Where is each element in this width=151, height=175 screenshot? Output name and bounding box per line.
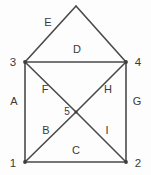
edge-label-c: C <box>72 145 80 156</box>
graph-edge-h <box>76 62 126 112</box>
graph-node-4 <box>124 60 128 64</box>
edge-label-g: G <box>133 96 142 107</box>
vertex-label-4: 4 <box>135 57 141 68</box>
edge-label-h: H <box>104 84 112 95</box>
vertex-label-3: 3 <box>10 57 16 68</box>
graph-edge-b <box>25 112 76 162</box>
graph-diagram: 12345ABCDEFGHI <box>0 0 151 175</box>
vertex-label-5: 5 <box>64 106 70 117</box>
edge-label-i: I <box>105 125 108 136</box>
graph-edge-i <box>76 112 126 162</box>
edge-label-d: D <box>73 44 81 55</box>
edge-label-a: A <box>10 96 17 107</box>
edge-label-f: F <box>42 84 49 95</box>
edge-label-b: B <box>42 125 49 136</box>
graph-edge-e <box>25 6 76 62</box>
edge-label-e: E <box>44 17 51 28</box>
graph-node-1 <box>23 160 27 164</box>
vertex-label-1: 1 <box>10 158 16 169</box>
graph-node-3 <box>23 60 27 64</box>
vertex-label-2: 2 <box>135 158 141 169</box>
graph-node-5 <box>74 110 77 113</box>
graph-edge-f <box>25 62 76 112</box>
graph-node-2 <box>124 160 128 164</box>
graph-edge-eapex <box>76 6 126 62</box>
